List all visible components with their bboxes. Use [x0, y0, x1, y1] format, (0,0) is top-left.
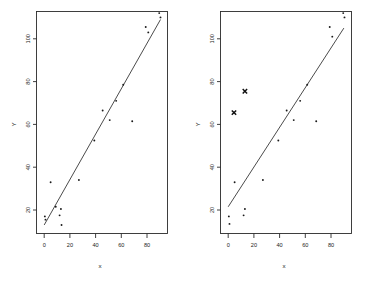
- y-tick-labels: 20 40 60 80 100: [25, 34, 31, 213]
- x-tick-label: 0: [43, 242, 46, 248]
- data-point: [102, 110, 104, 112]
- x-tick-label: 20: [251, 242, 257, 248]
- y-tick-label: 80: [25, 78, 31, 84]
- data-point: [342, 12, 344, 14]
- x-tick-label: 60: [118, 242, 124, 248]
- y-axis-title: Y: [10, 122, 17, 126]
- y-tick-label: 100: [25, 34, 31, 43]
- data-point: [59, 214, 61, 216]
- data-point: [277, 140, 279, 142]
- data-point: [293, 119, 295, 121]
- y-tick-label: 60: [209, 121, 215, 127]
- x-axis-title: x: [282, 262, 286, 269]
- data-points: [228, 12, 346, 225]
- data-point: [50, 181, 52, 183]
- data-point: [286, 110, 288, 112]
- plot-frame: [221, 12, 352, 234]
- x-tick-label: 40: [92, 242, 98, 248]
- outlier-markers: [232, 89, 247, 115]
- regression-line-segment: [44, 20, 160, 225]
- x-axis-ticks: [44, 234, 147, 239]
- data-point: [262, 179, 264, 181]
- y-tick-label: 60: [25, 121, 31, 127]
- data-point: [229, 223, 231, 225]
- y-tick-labels: 20 40 60 80 100: [209, 34, 215, 213]
- data-point: [331, 36, 333, 38]
- data-point: [131, 120, 133, 122]
- data-point: [244, 208, 246, 210]
- outlier-x-marker: [243, 89, 247, 93]
- data-point: [306, 84, 308, 86]
- data-point: [145, 26, 147, 28]
- data-point: [228, 215, 230, 217]
- y-tick-label: 40: [209, 164, 215, 170]
- data-point: [55, 206, 57, 208]
- x-axis-title: x: [98, 262, 102, 269]
- scatter-panel-right: 20 40 60 80 100 Y 0 20 40 60 80 x: [186, 0, 372, 283]
- data-point: [160, 16, 162, 18]
- x-tick-label: 80: [328, 242, 334, 248]
- x-axis-ticks: [228, 234, 331, 239]
- data-point: [115, 100, 117, 102]
- data-point: [158, 12, 160, 14]
- x-tick-label: 60: [302, 242, 308, 248]
- y-tick-label: 20: [209, 207, 215, 213]
- x-tick-label: 20: [67, 242, 73, 248]
- data-point: [60, 208, 62, 210]
- data-point: [234, 181, 236, 183]
- figure-canvas: 20 40 60 80 100 Y 0 20 40 60 80 x: [0, 0, 372, 283]
- y-axis-title: Y: [194, 122, 201, 126]
- data-point: [243, 214, 245, 216]
- data-point: [147, 31, 149, 33]
- x-tick-label: 40: [276, 242, 282, 248]
- regression-line: [228, 28, 344, 207]
- data-point: [109, 119, 111, 121]
- outlier-x-marker: [232, 110, 236, 114]
- data-point: [45, 219, 47, 221]
- y-axis-ticks: [217, 39, 221, 210]
- data-point: [315, 120, 317, 122]
- x-tick-labels: 0 20 40 60 80: [227, 242, 334, 248]
- y-tick-label: 40: [25, 164, 31, 170]
- y-tick-label: 20: [25, 207, 31, 213]
- x-tick-labels: 0 20 40 60 80: [43, 242, 150, 248]
- scatter-plot-left-svg: 20 40 60 80 100 Y 0 20 40 60 80 x: [0, 0, 186, 283]
- data-point: [122, 84, 124, 86]
- regression-line: [44, 20, 160, 225]
- data-point: [344, 16, 346, 18]
- y-tick-label: 100: [209, 34, 215, 43]
- y-axis-ticks: [33, 39, 37, 210]
- scatter-plot-right-svg: 20 40 60 80 100 Y 0 20 40 60 80 x: [186, 0, 372, 283]
- data-point: [44, 215, 46, 217]
- data-point: [61, 224, 63, 226]
- data-point: [93, 140, 95, 142]
- regression-line-segment: [228, 28, 344, 207]
- data-point: [299, 100, 301, 102]
- data-point: [78, 179, 80, 181]
- data-point: [329, 26, 331, 28]
- y-tick-label: 80: [209, 78, 215, 84]
- x-tick-label: 80: [144, 242, 150, 248]
- scatter-panel-left: 20 40 60 80 100 Y 0 20 40 60 80 x: [0, 0, 186, 283]
- x-tick-label: 0: [227, 242, 230, 248]
